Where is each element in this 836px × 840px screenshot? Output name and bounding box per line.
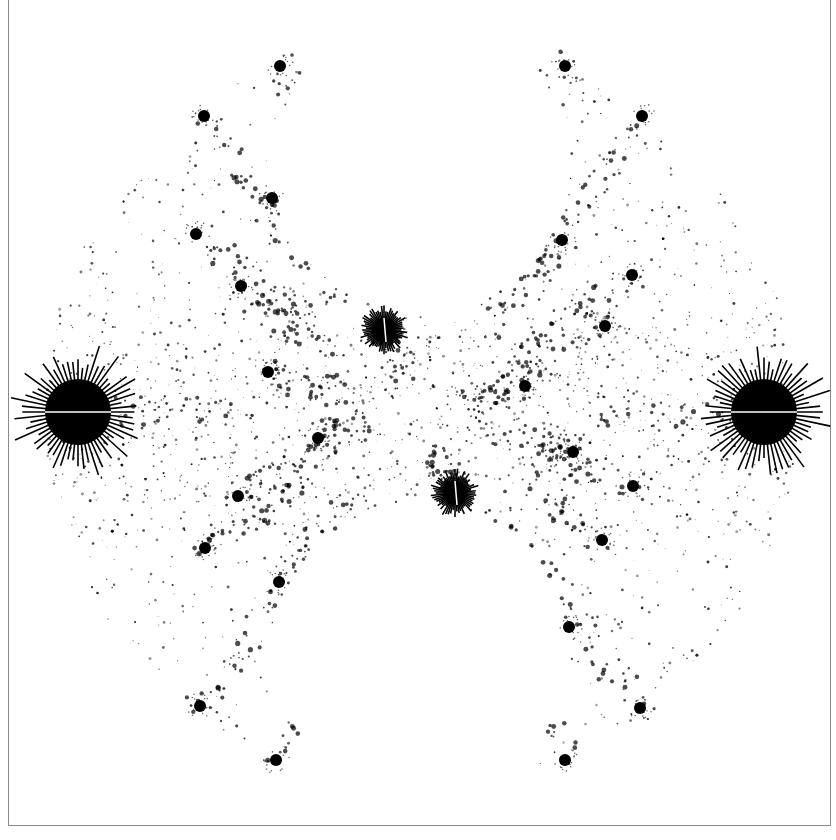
fractal-image — [0, 0, 836, 840]
